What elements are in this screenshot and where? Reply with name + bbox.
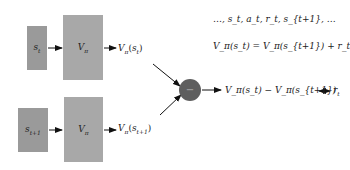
trajectory-sequence: …, s_t, a_t, r_t, s_{t+1}, … (213, 14, 336, 24)
arrow-vst1-to-subtract (160, 95, 181, 115)
bellman-equation: V_π(s_t) = V_π(s_{t+1}) + r_t (213, 41, 350, 51)
arrow-vst-to-subtract (153, 64, 180, 86)
minus-icon: − (186, 85, 194, 95)
td-difference-output: V_π(s_t) − V_π(s_{t+1}) (225, 85, 336, 95)
subtract-operator-node: − (179, 79, 201, 101)
reward-target: rt (333, 85, 340, 97)
